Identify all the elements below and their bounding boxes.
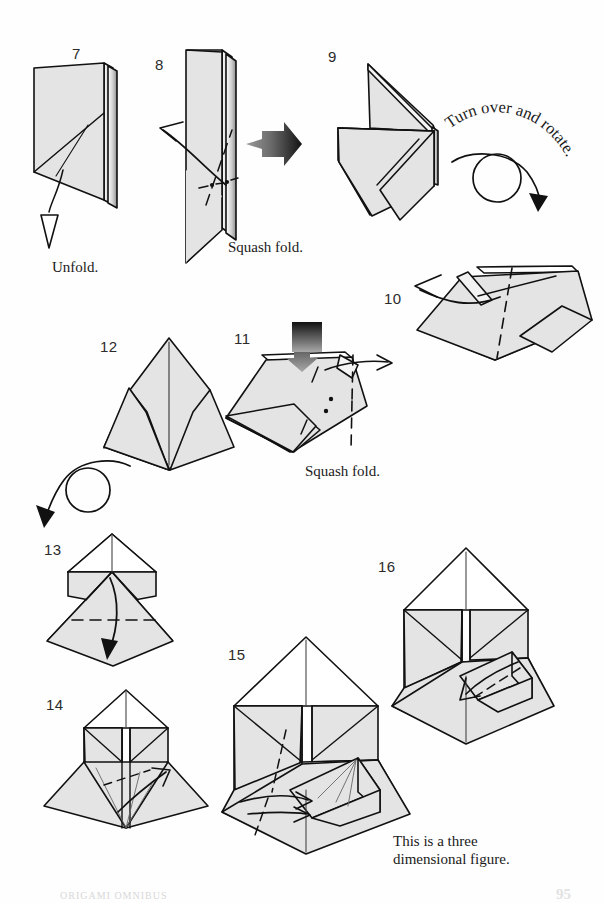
step-number-16: 16 [378, 558, 396, 575]
page-number: 95 [556, 886, 571, 903]
step-8-figure [160, 50, 302, 263]
caption-three-dimensional: This is a three dimensional figure. [393, 832, 510, 869]
step-number-15: 15 [228, 646, 246, 663]
step-9-figure [338, 64, 548, 220]
step-number-14: 14 [46, 696, 64, 713]
caption-squash-fold-11: Squash fold. [305, 462, 380, 480]
step-number-13: 13 [44, 541, 62, 558]
step-13-figure [47, 534, 173, 666]
caption-squash-fold-8: Squash fold. [228, 238, 303, 256]
step-7-figure [34, 63, 117, 248]
footer-book-title: ORIGAMI OMNIBUS [60, 890, 168, 901]
step-number-11: 11 [234, 330, 251, 347]
step-15-figure [222, 637, 410, 854]
origami-diagrams [0, 0, 604, 903]
step-16-figure [392, 548, 554, 744]
caption-unfold: Unfold. [52, 258, 98, 276]
step-14-figure [44, 690, 208, 828]
step-12-figure [36, 338, 234, 528]
origami-instruction-page: Turn over and rotate. 7 8 9 10 11 12 13 … [0, 0, 604, 903]
step-number-10: 10 [384, 290, 402, 307]
step-number-8: 8 [155, 56, 164, 73]
step-10-figure [415, 266, 592, 360]
step-number-9: 9 [328, 48, 337, 65]
step-number-7: 7 [72, 45, 81, 62]
step-11-figure [226, 322, 392, 452]
step-number-12: 12 [100, 338, 118, 355]
